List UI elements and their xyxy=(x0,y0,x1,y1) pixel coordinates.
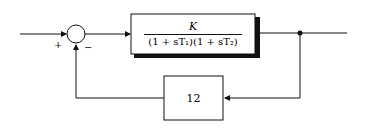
plus-sign: + xyxy=(54,39,62,50)
summing-junction xyxy=(67,25,85,43)
denominator: (1 + sT₁)(1 + sT₂) xyxy=(144,34,241,48)
forward-transfer-function: K (1 + sT₁)(1 + sT₂) xyxy=(131,14,255,54)
feedback-gain: 12 xyxy=(164,76,223,120)
minus-sign: − xyxy=(84,42,92,53)
numerator: K xyxy=(189,21,197,34)
